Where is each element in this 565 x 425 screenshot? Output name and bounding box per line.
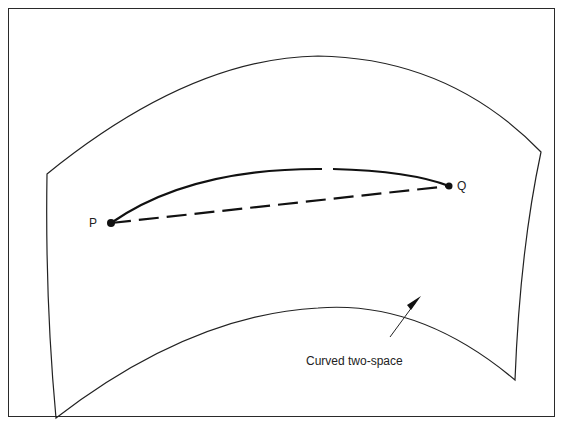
point-q-dot [446, 183, 453, 190]
surface-caption: Curved two-space [306, 355, 403, 367]
geodesic-curve-segment [333, 169, 449, 186]
diagram-canvas [0, 0, 565, 425]
geodesic-curve [111, 169, 322, 223]
straight-chord-dashed [111, 186, 449, 223]
point-p-dot [107, 219, 115, 227]
point-p-label: P [89, 217, 97, 229]
caption-arrow-head-icon [407, 296, 421, 310]
curved-surface-outline [47, 56, 541, 418]
point-q-label: Q [457, 180, 466, 192]
curved-two-space-figure: P Q Curved two-space [0, 0, 565, 425]
